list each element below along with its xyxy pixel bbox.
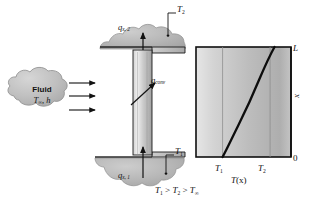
fluid-properties: T∞, h <box>19 96 65 106</box>
temperature-profile-plot <box>196 47 291 157</box>
heat-transfer-figure: Fluid T∞, h qx, 2 qx, 1 qconv T2 T1 T1 >… <box>0 0 313 208</box>
plot-x-axis-label: T(x) <box>231 176 247 185</box>
flux-convection-label: qconv <box>151 76 165 86</box>
plane-wall <box>95 47 185 157</box>
surface-temperature-top-label: T2 <box>177 5 185 15</box>
plot-y-top-tick: L <box>293 44 298 53</box>
plot-y-bottom-tick: 0 <box>293 154 298 163</box>
fluid-label: Fluid T∞, h <box>19 85 65 106</box>
fluid-flow-arrows <box>69 83 95 110</box>
fluid-name: Fluid <box>32 85 52 94</box>
plot-y-axis-label: x <box>292 94 301 98</box>
temperature-inequality: T1 > T2 > T∞ <box>155 186 199 196</box>
lower-surroundings-cloud <box>95 158 184 186</box>
surface-temperature-bottom-label: T1 <box>175 147 183 157</box>
plot-x-tick-t1: T1 <box>215 164 223 174</box>
flux-top-label: qx, 2 <box>118 23 130 33</box>
plot-x-tick-t2: T2 <box>258 164 266 174</box>
flux-bottom-label: qx, 1 <box>118 171 130 181</box>
